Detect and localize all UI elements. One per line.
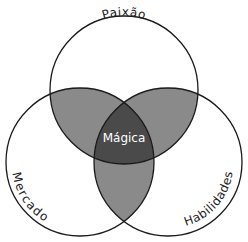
venn-diagram: Paixão Mercado Habilidades Mágica bbox=[0, 0, 248, 242]
label-habilidades: Habilidades bbox=[182, 170, 236, 229]
label-paixao: Paixão bbox=[100, 5, 148, 22]
label-magica: Mágica bbox=[103, 131, 146, 145]
